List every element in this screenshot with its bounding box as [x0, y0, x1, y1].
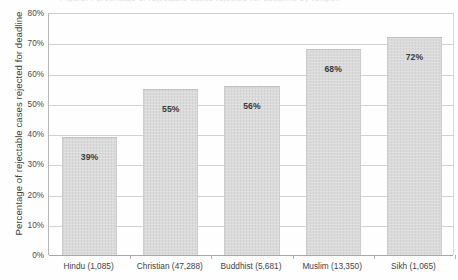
x-axis-tick-mark: [130, 255, 131, 259]
x-axis-tick-mark: [293, 255, 294, 259]
y-tick-label: 70%: [16, 39, 44, 48]
bar: 55%: [143, 89, 198, 255]
x-category-label: Sikh (1,065): [391, 261, 436, 271]
bar: 56%: [224, 86, 279, 255]
bar-value-label: 56%: [225, 101, 278, 111]
bar: 68%: [306, 49, 361, 255]
x-category-label: Christian (47,288): [137, 261, 203, 271]
bar: 39%: [62, 137, 117, 255]
x-axis-tick-mark: [211, 255, 212, 259]
y-tick-label: 20%: [16, 190, 44, 199]
bar-series: 39%55%56%68%72%: [49, 14, 453, 255]
x-axis-tick-mark: [455, 255, 456, 259]
y-tick-label: 50%: [16, 99, 44, 108]
plot-area: 39%55%56%68%72%: [48, 13, 454, 255]
y-tick-label: 60%: [16, 69, 44, 78]
cutoff-chart-title: Figure: Percentage of rejectable cases r…: [60, 0, 400, 2]
x-axis-category-labels: Hindu (1,085)Christian (47,288)Buddhist …: [48, 261, 454, 275]
x-category-label: Muslim (13,350): [302, 261, 361, 271]
y-tick-label: 40%: [16, 130, 44, 139]
y-tick-label: 30%: [16, 160, 44, 169]
bar-value-label: 39%: [63, 152, 116, 162]
y-axis-tick-labels: 0%10%20%30%40%50%60%70%80%: [16, 13, 44, 255]
axis-baseline: [49, 255, 453, 256]
x-category-label: Hindu (1,085): [63, 261, 113, 271]
bar-value-label: 72%: [388, 52, 441, 62]
x-axis-tick-mark: [374, 255, 375, 259]
y-tick-label: 10%: [16, 220, 44, 229]
x-category-label: Buddhist (5,681): [221, 261, 282, 271]
bar-value-label: 55%: [144, 104, 197, 114]
bar-value-label: 68%: [307, 64, 360, 74]
y-tick-label: 80%: [16, 9, 44, 18]
y-tick-label: 0%: [16, 251, 44, 260]
bar-chart-figure: Figure: Percentage of rejectable cases r…: [0, 0, 458, 280]
bar: 72%: [387, 37, 442, 255]
